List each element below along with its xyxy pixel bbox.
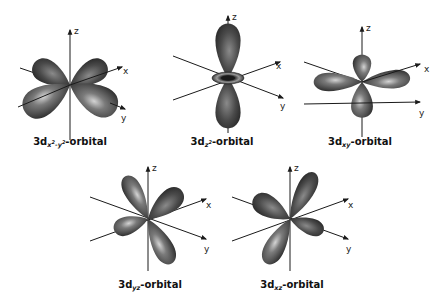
- label-dyz: 3dyz-orbital: [118, 279, 182, 292]
- orbital-diagram: z x y z x y z x y z: [0, 0, 435, 302]
- x-axis-label: x: [276, 61, 282, 71]
- y-axis-label: y: [280, 101, 286, 111]
- x-axis-label: x: [424, 64, 430, 74]
- y-axis-label: y: [419, 108, 425, 118]
- y-axis-label: y: [346, 244, 352, 254]
- y-axis-label: y: [204, 244, 210, 254]
- z-axis-label: z: [294, 163, 299, 173]
- x-axis-label: x: [348, 200, 354, 210]
- label-dxy: 3dxy-orbital: [328, 136, 392, 149]
- orbital-dx2-y2: z x y: [17, 26, 129, 140]
- z-axis-label: z: [74, 26, 79, 36]
- z-axis-label: z: [152, 163, 157, 173]
- orbital-dz2: z x y: [173, 12, 286, 133]
- orbital-dxy: z x y: [304, 23, 430, 137]
- orbital-dxz: z x y: [232, 163, 354, 271]
- y-axis-label: y: [121, 113, 127, 123]
- label-dxz: 3dxz-orbital: [260, 279, 324, 292]
- orbital-dyz: z x y: [90, 163, 212, 271]
- z-axis-label: z: [366, 23, 371, 33]
- z-axis-label: z: [232, 12, 237, 22]
- x-axis-label: x: [123, 66, 129, 76]
- label-dz2: 3dz2-orbital: [191, 136, 254, 149]
- orbital-figure-svg: z x y z x y z x y z: [0, 0, 435, 302]
- x-axis-label: x: [206, 200, 212, 210]
- label-dx2-y2: 3dx2-y2-orbital: [33, 136, 107, 149]
